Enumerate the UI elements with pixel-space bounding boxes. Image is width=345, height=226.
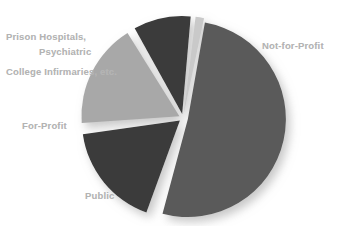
slice-label-not-for-profit: Not-for-Profit <box>262 40 324 52</box>
slice-label-prison-hospitals-line2: College Infirmaries, etc. <box>6 66 117 78</box>
slice-label-psychiatric: Psychiatric <box>39 46 91 58</box>
slice-label-for-profit: For-Profit <box>22 120 67 132</box>
slice-label-public: Public <box>85 190 114 202</box>
slice-label-prison-hospitals-line1: Prison Hospitals, <box>6 31 117 43</box>
pie-chart-figure: Prison Hospitals, College Infirmaries, e… <box>0 0 345 226</box>
